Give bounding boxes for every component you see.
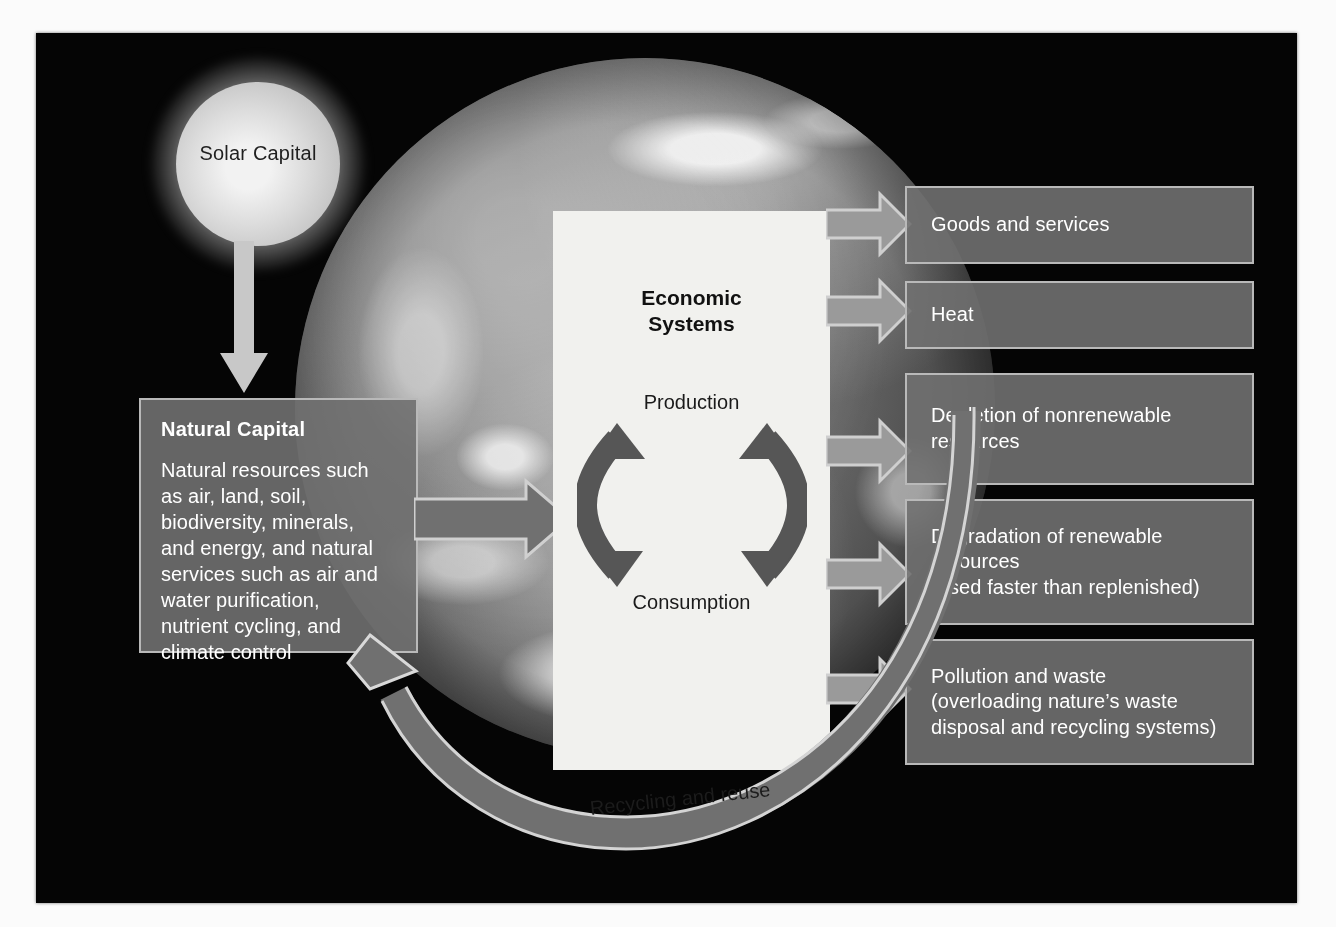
output-arrow-heat [826,275,912,347]
output-arrow-pollution [826,653,912,725]
diagram-stage: Solar Capital Natural Capital Natural re… [0,0,1336,927]
natural-capital-title: Natural Capital [161,418,400,441]
recycling-and-reuse-label: Recycling and reuse [589,778,772,820]
output-arrow-degradation [826,538,912,610]
solar-capital-label: Solar Capital [199,142,316,165]
output-arrow-depletion [826,415,912,487]
production-consumption-cycle-icon [577,413,807,597]
output-label-heat: Heat [931,302,974,328]
output-label-goods-and-services: Goods and services [931,212,1110,238]
output-label-degradation-renewable: Degradation of renewable resources (used… [931,524,1200,601]
production-label: Production [553,391,830,414]
output-box-goods-and-services: Goods and services [905,186,1254,264]
output-box-heat: Heat [905,281,1254,349]
output-box-degradation-renewable: Degradation of renewable resources (used… [905,499,1254,625]
output-label-depletion-nonrenewable: Depletion of nonrenewable resources [931,403,1171,454]
solar-to-natural-capital-arrow [214,241,274,401]
output-arrow-goods-and-services [826,188,912,260]
output-box-pollution-and-waste: Pollution and waste (overloading nature’… [905,639,1254,765]
natural-capital-body: Natural resources such as air, land, soi… [161,457,400,665]
output-box-depletion-nonrenewable: Depletion of nonrenewable resources [905,373,1254,485]
economic-systems-panel: Economic Systems Production Consumption [553,211,830,770]
output-label-pollution-and-waste: Pollution and waste (overloading nature’… [931,664,1216,741]
diagram-canvas: Solar Capital Natural Capital Natural re… [36,33,1297,903]
natural-capital-box: Natural Capital Natural resources such a… [139,398,418,653]
economic-systems-title: Economic Systems [553,285,830,336]
natural-capital-to-economy-arrow [414,469,574,569]
solar-capital-sun: Solar Capital [176,82,340,246]
